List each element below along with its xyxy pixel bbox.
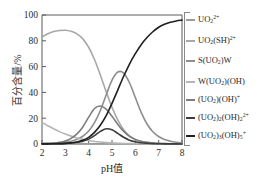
- legend-item-5[interactable]: (UO2)2(OH)22+: [186, 110, 249, 126]
- x-tick-label: 6: [133, 148, 138, 158]
- legend-label-2: S(UO2)W: [198, 56, 232, 66]
- y-tick-label: 100: [24, 10, 39, 20]
- legend-item-0[interactable]: UO22+: [186, 12, 219, 28]
- legend-label-0: UO22+: [198, 15, 219, 25]
- legend-item-1[interactable]: UO2(SH)2+: [186, 33, 236, 49]
- y-tick-label: 80: [29, 36, 39, 46]
- legend-label-6: (UO2)3(OH)5+: [198, 131, 246, 141]
- x-axis-title: pH值: [101, 162, 123, 174]
- legend-label-5: (UO2)2(OH)22+: [198, 113, 249, 123]
- y-tick-label: 40: [29, 88, 39, 98]
- legend-label-3: W(UO2)(OH): [198, 77, 245, 87]
- y-tick-label: 60: [29, 62, 39, 72]
- y-tick-label: 20: [29, 114, 39, 124]
- curve-series-1: [42, 30, 182, 144]
- legend-label-4: (UO2)(OH)+: [198, 95, 240, 105]
- x-tick-label: 2: [40, 148, 45, 158]
- legend-swatch-2: [186, 60, 195, 62]
- y-axis-title: 百分含量/%: [11, 54, 23, 105]
- legend-item-4[interactable]: (UO2)(OH)+: [186, 92, 240, 108]
- chart-figure: 0204060801002345678 pH值 百分含量/% UO22+UO2(…: [0, 0, 273, 182]
- legend-item-6[interactable]: (UO2)3(OH)5+: [186, 128, 246, 144]
- x-tick-label: 7: [156, 148, 161, 158]
- legend-swatch-3: [186, 81, 195, 83]
- legend-swatch-5: [186, 117, 195, 119]
- legend-item-3[interactable]: W(UO2)(OH): [186, 74, 245, 90]
- legend-swatch-0: [186, 19, 195, 21]
- x-tick-label: 8: [180, 148, 185, 158]
- legend-item-2[interactable]: S(UO2)W: [186, 53, 232, 69]
- legend-swatch-1: [186, 40, 195, 42]
- legend-label-1: UO2(SH)2+: [198, 36, 236, 46]
- legend-swatch-4: [186, 99, 195, 101]
- chart-legend: UO22+UO2(SH)2+S(UO2)WW(UO2)(OH)(UO2)(OH)…: [186, 12, 273, 144]
- x-tick-label: 4: [86, 148, 91, 158]
- x-tick-label: 5: [110, 148, 115, 158]
- x-tick-label: 3: [63, 148, 68, 158]
- y-tick-label: 0: [33, 139, 38, 149]
- legend-swatch-6: [186, 135, 195, 137]
- data-curves: [42, 20, 182, 144]
